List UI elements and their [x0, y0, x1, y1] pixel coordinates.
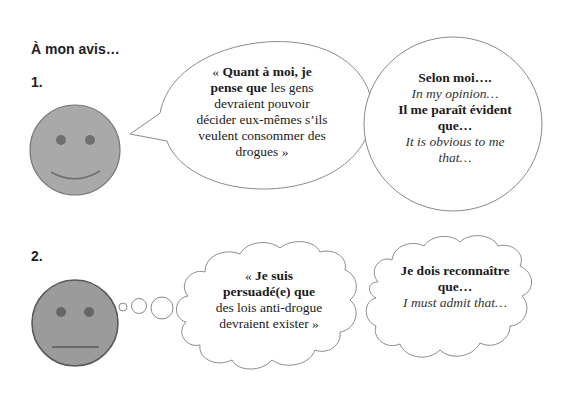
smiling-face-icon [30, 105, 120, 195]
phrase-fr-2: Il me paraît évident que… [395, 102, 515, 134]
open-quote: « [245, 268, 255, 283]
thought-cloud-1-text: « Je suis persuadé(e) que des lois anti-… [214, 268, 324, 332]
phrase-fr-3: Je dois reconnaître que… [400, 263, 510, 295]
thought-cloud-2-text: Je dois reconnaître que… I must admit th… [400, 263, 510, 311]
key-phrase-bold: Je suis persuadé(e) que [223, 268, 315, 299]
phrase-en-3: I must admit that… [400, 295, 510, 311]
quote-rest: des lois anti-drogue devraient exister » [216, 300, 322, 331]
open-quote: « [212, 64, 222, 79]
neutral-face-icon [32, 280, 118, 366]
phrase-en-2: It is obvious to me that… [395, 134, 515, 166]
speech-bubble-1-text: « Quant à moi, je pense que les gens dev… [196, 64, 328, 160]
illustration-layer [0, 0, 573, 409]
phrase-bubble-1-text: Selon moi…. In my opinion… Il me paraît … [395, 70, 515, 166]
thought-trail-icon [119, 297, 173, 319]
phrase-fr-1: Selon moi…. [395, 70, 515, 86]
phrase-en-1: In my opinion… [395, 86, 515, 102]
